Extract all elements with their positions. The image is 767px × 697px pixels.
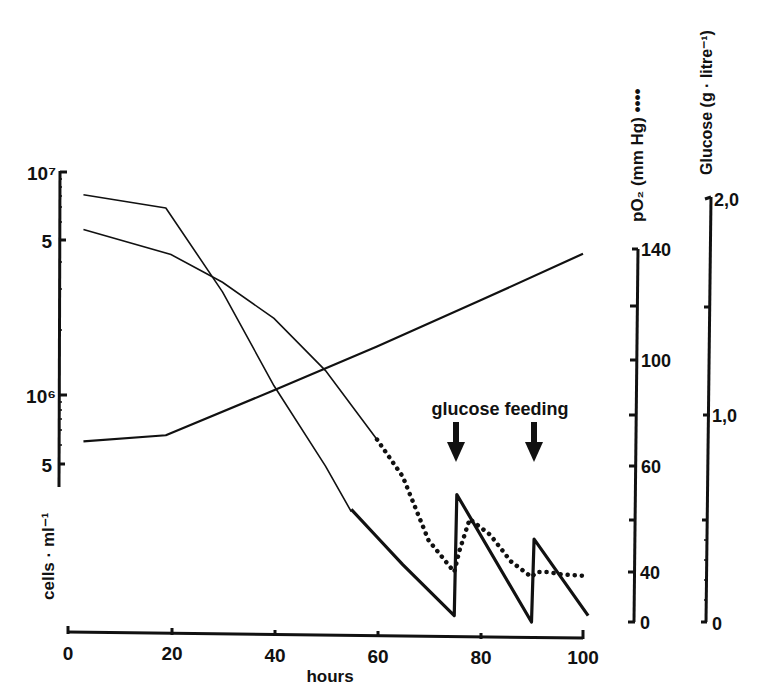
svg-text:0: 0 bbox=[640, 613, 650, 633]
svg-text:10⁷: 10⁷ bbox=[27, 163, 56, 184]
po2-axis bbox=[628, 249, 638, 622]
svg-text:5: 5 bbox=[41, 231, 52, 252]
feeding-arrow-icon bbox=[447, 422, 465, 462]
glucose-axis-title: Glucose (g · litre⁻¹) bbox=[698, 30, 715, 175]
x-axis-title: hours bbox=[306, 667, 353, 686]
svg-text:0: 0 bbox=[712, 614, 722, 634]
feeding-arrow-icon bbox=[525, 422, 543, 462]
svg-text:20: 20 bbox=[161, 643, 182, 664]
svg-text:80: 80 bbox=[470, 647, 491, 668]
x-axis bbox=[68, 626, 583, 639]
svg-text:1,0: 1,0 bbox=[712, 406, 737, 426]
glucose-tick-labels: 2,0 1,0 0 bbox=[712, 190, 739, 634]
svg-text:10⁶: 10⁶ bbox=[26, 386, 56, 407]
left-axis-title: cells · ml⁻¹ bbox=[39, 512, 58, 600]
chart-canvas: 0 20 40 60 80 100 hours 10⁷ 5 10⁶ 5 cell… bbox=[0, 0, 767, 697]
svg-text:0: 0 bbox=[63, 643, 74, 664]
po2-tick-labels: 140 100 60 40 0 bbox=[640, 240, 671, 633]
series-line-1 bbox=[83, 195, 351, 512]
svg-text:60: 60 bbox=[367, 646, 388, 667]
po2-axis-title: pO₂ (mm Hg) •••• bbox=[628, 89, 647, 222]
svg-text:40: 40 bbox=[264, 645, 285, 666]
svg-text:2,0: 2,0 bbox=[714, 190, 739, 210]
svg-text:100: 100 bbox=[641, 351, 671, 371]
svg-text:60: 60 bbox=[641, 457, 661, 477]
svg-text:140: 140 bbox=[641, 240, 671, 260]
left-y-axis bbox=[59, 171, 67, 487]
glucose-feeding-label: glucose feeding bbox=[431, 399, 568, 419]
svg-text:40: 40 bbox=[640, 563, 660, 583]
left-tick-labels: 10⁷ 5 10⁶ 5 bbox=[26, 163, 56, 476]
x-tick-labels: 0 20 40 60 80 100 bbox=[63, 643, 599, 668]
series-line-3 bbox=[351, 495, 588, 623]
glucose-axis bbox=[701, 197, 711, 622]
svg-text:5: 5 bbox=[41, 455, 52, 476]
po2-dotted-line bbox=[377, 440, 583, 578]
svg-text:100: 100 bbox=[567, 647, 599, 668]
